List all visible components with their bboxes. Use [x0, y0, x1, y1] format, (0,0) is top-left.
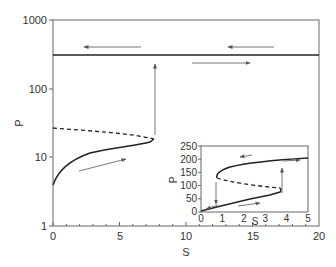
inset-xtick-3: 3 — [262, 213, 268, 224]
inset-xtick-5: 5 — [305, 213, 311, 224]
inset-ytick-50: 50 — [186, 193, 198, 204]
main-xtick-10: 10 — [180, 230, 192, 242]
inset-ytick-100: 100 — [180, 180, 197, 191]
main-y-label: P — [13, 119, 25, 126]
main-ytick-1000: 1000 — [23, 14, 47, 26]
main-xtick-20: 20 — [313, 230, 325, 242]
main-xtick-15: 15 — [247, 230, 259, 242]
main-xtick-0: 0 — [50, 230, 56, 242]
main-ytick-1: 1 — [41, 220, 47, 232]
inset-xtick-0: 0 — [198, 213, 204, 224]
unstable-branch — [53, 128, 154, 139]
inset-y-label: P — [168, 176, 179, 183]
main-xtick-5: 5 — [117, 230, 123, 242]
inset-xtick-4: 4 — [284, 213, 290, 224]
main-y-axis — [49, 20, 53, 226]
inset-ytick-150: 150 — [180, 167, 197, 178]
inset-ytick-0: 0 — [191, 206, 197, 217]
bifurcation-chart: 1000 100 10 1 — [0, 0, 336, 267]
lower-stable-branch — [53, 139, 154, 185]
main-plot: 1000 100 10 1 — [13, 14, 325, 258]
arrow-right-icon — [79, 159, 126, 171]
inset-ytick-250: 250 — [180, 141, 197, 152]
inset-x-label: S — [252, 216, 259, 227]
inset-xtick-2: 2 — [241, 213, 247, 224]
inset-xtick-1: 1 — [220, 213, 226, 224]
main-x-label: S — [182, 246, 189, 258]
main-ytick-100: 100 — [29, 83, 47, 95]
inset-ytick-200: 200 — [180, 154, 197, 165]
inset-plot: 250 200 150 100 50 0 0 1 2 3 4 5 S P — [168, 141, 311, 227]
main-ytick-10: 10 — [35, 151, 47, 163]
